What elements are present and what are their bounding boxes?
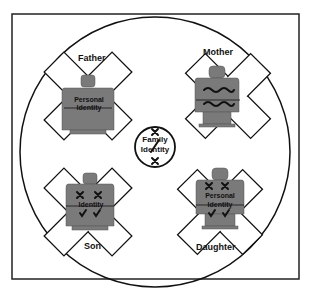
mother-label: Mother xyxy=(203,47,233,57)
center-identity-text: Identity xyxy=(138,145,172,154)
daughter-identity-text: Identity xyxy=(203,201,237,208)
family-identity-diagram: Father Mother Son Daughter Personal Iden… xyxy=(0,0,312,294)
father-identity-text: Identity xyxy=(72,104,106,111)
daughter-label: Daughter xyxy=(196,242,236,252)
son-identity-text: Identity xyxy=(74,201,108,208)
son-label: Son xyxy=(84,241,101,251)
daughter-personal-text: Personal xyxy=(203,192,237,199)
father-personal-text: Personal xyxy=(72,96,106,103)
center-family-text: Family xyxy=(138,135,172,144)
father-label: Father xyxy=(78,53,106,63)
